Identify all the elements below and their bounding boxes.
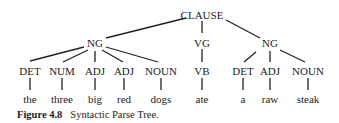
figure-caption: Figure 4.8Syntactic Parse Tree. <box>17 109 159 120</box>
node-pos: ADJ <box>260 65 280 77</box>
leaf-word: dogs <box>151 93 172 105</box>
leaf-word: ate <box>196 93 209 105</box>
leaf-word: the <box>23 93 36 105</box>
leaf-word: big <box>88 93 102 105</box>
node-pos: NUM <box>49 65 75 77</box>
node-clause: CLAUSE <box>181 9 224 21</box>
node-vg: VG <box>194 37 210 49</box>
node-pos: DET <box>19 65 40 77</box>
node-pos: ADJ <box>114 65 134 77</box>
leaf-word: red <box>117 93 131 105</box>
node-ng-right: NG <box>262 37 278 49</box>
node-ng-left: NG <box>87 37 103 49</box>
node-pos: NOUN <box>145 65 177 77</box>
figure-number: Figure 4.8 <box>17 109 62 120</box>
node-pos: NOUN <box>292 65 324 77</box>
leaf-word: a <box>241 93 246 105</box>
leaf-word: steak <box>297 93 320 105</box>
node-pos: VB <box>194 65 209 77</box>
figure-title: Syntactic Parse Tree. <box>70 109 158 120</box>
leaf-word: three <box>51 93 73 105</box>
node-pos: DET <box>232 65 253 77</box>
node-pos: ADJ <box>85 65 105 77</box>
leaf-word: raw <box>262 93 279 105</box>
